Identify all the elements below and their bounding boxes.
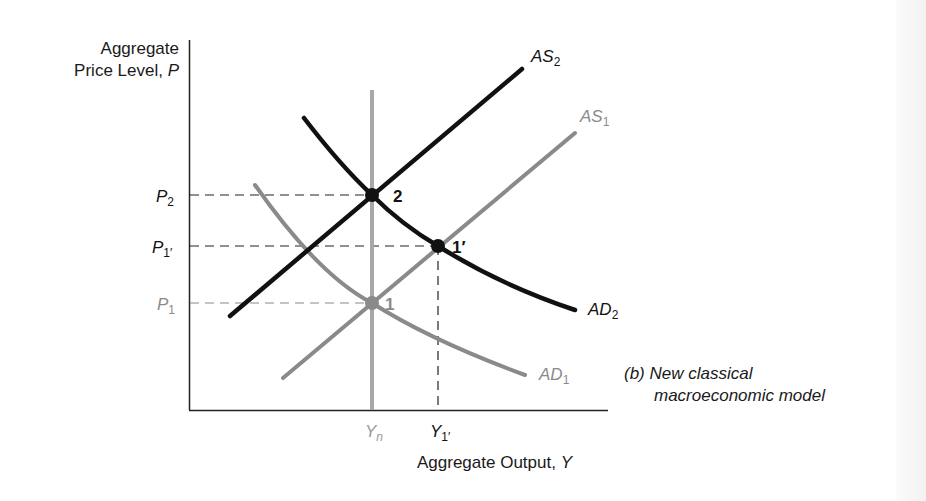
x-tick-y1prime: Y1′: [430, 422, 451, 444]
label-ad1: AD1: [538, 365, 570, 387]
figure-caption: (b) New classical macroeconomic model: [624, 363, 825, 407]
y-tick-p1: P1: [157, 295, 175, 317]
x-axis-variable: Y: [561, 453, 572, 472]
x-axis-label: Aggregate Output, Y: [417, 453, 572, 473]
caption-line1: (b) New classical: [624, 363, 825, 385]
as1-line: [283, 133, 575, 378]
label-as1: AS1: [579, 107, 610, 129]
label-ad2: AD2: [587, 300, 619, 322]
point-label-1: 1: [385, 295, 394, 314]
point-label-1prime: 1′: [452, 238, 466, 257]
label-as2: AS2: [530, 47, 561, 69]
equilibrium-point-1prime: [431, 239, 445, 253]
chart-plot: 2 1′ 1 P2 P1′ P1 Yn Y1′ AS2 AS1 AD2 AD1: [0, 0, 926, 501]
y-tick-p1prime: P1′: [152, 238, 173, 260]
point-label-2: 2: [393, 187, 402, 206]
ad2-curve: [304, 118, 575, 310]
equilibrium-point-1: [365, 296, 379, 310]
x-tick-yn: Yn: [365, 422, 383, 444]
x-axis-label-text: Aggregate Output,: [417, 453, 561, 472]
equilibrium-point-2: [365, 188, 379, 202]
y-tick-p2: P2: [156, 187, 174, 209]
caption-line2: macroeconomic model: [624, 385, 825, 407]
